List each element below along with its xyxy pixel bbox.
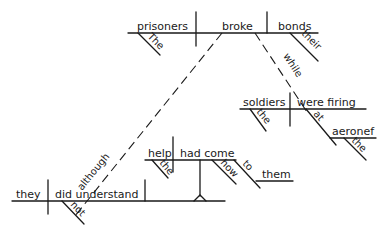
word-prisoners: prisoners [137,20,188,33]
word-while: while [281,51,305,79]
pedestal-foot [194,195,206,201]
word-they: they [16,188,41,201]
word-to: to [241,158,256,173]
word-did-understand: did understand [55,188,138,201]
word-their: their [300,28,325,53]
word-were-firing: were firing [297,96,356,109]
word-broke: broke [222,20,253,33]
main-clause: prisoners broke bonds The their [128,12,324,61]
word-them: them [262,168,291,181]
word-how: how [219,157,241,180]
although-clause: they did understand not [12,160,225,224]
word-although: although [75,151,111,192]
word-at: at [311,108,326,123]
while-clause: soldiers were firing the at aeronef the [240,93,376,160]
sentence-diagram: prisoners broke bonds The their while so… [0,0,392,236]
word-not: not [69,199,88,219]
noun-clause: help had come the how to them [145,137,293,188]
word-aeronef: aeronef [332,125,375,138]
word-help: help [148,147,172,160]
